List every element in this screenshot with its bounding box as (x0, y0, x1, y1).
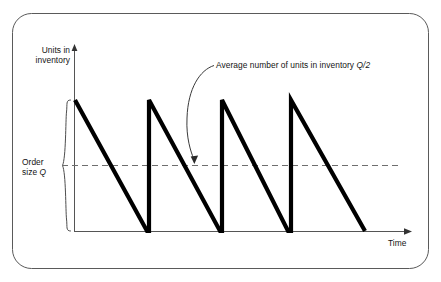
order-size-label: Ordersize Q (22, 157, 60, 177)
x-axis-label: Time (388, 238, 407, 248)
order-size-symbol: Q (39, 167, 46, 177)
order-size-label-line2: size (22, 167, 39, 177)
y-axis-label: Units ininventory (18, 45, 70, 65)
average-inventory-annotation-text: Average number of units in inventory (216, 60, 356, 70)
y-axis-label-line2: inventory (36, 55, 70, 65)
order-size-label-line1: Order (22, 157, 44, 167)
inventory-sawtooth-diagram (0, 0, 441, 282)
y-axis-label-line1: Units in (42, 45, 70, 55)
figure-container: Units ininventory Ordersize Q Average nu… (0, 0, 441, 282)
average-inventory-annotation-symbol: Q/2 (356, 60, 370, 70)
average-inventory-annotation: Average number of units in inventory Q/2 (216, 60, 370, 70)
